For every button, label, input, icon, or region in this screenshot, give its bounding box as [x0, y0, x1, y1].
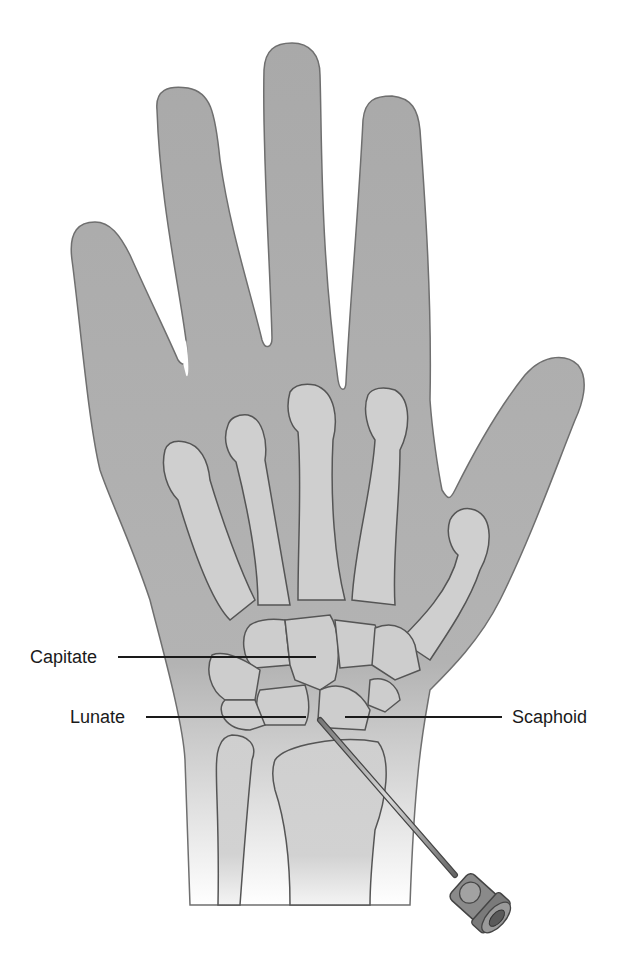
leader-line-scaphoid	[345, 716, 502, 718]
label-scaphoid: Scaphoid	[512, 708, 587, 726]
forearm-bones	[216, 735, 386, 905]
label-lunate: Lunate	[70, 708, 125, 726]
hand-wrist-illustration	[0, 0, 625, 963]
leader-line-lunate	[146, 716, 306, 718]
leader-line-capitate	[118, 656, 316, 658]
label-capitate: Capitate	[30, 648, 97, 666]
